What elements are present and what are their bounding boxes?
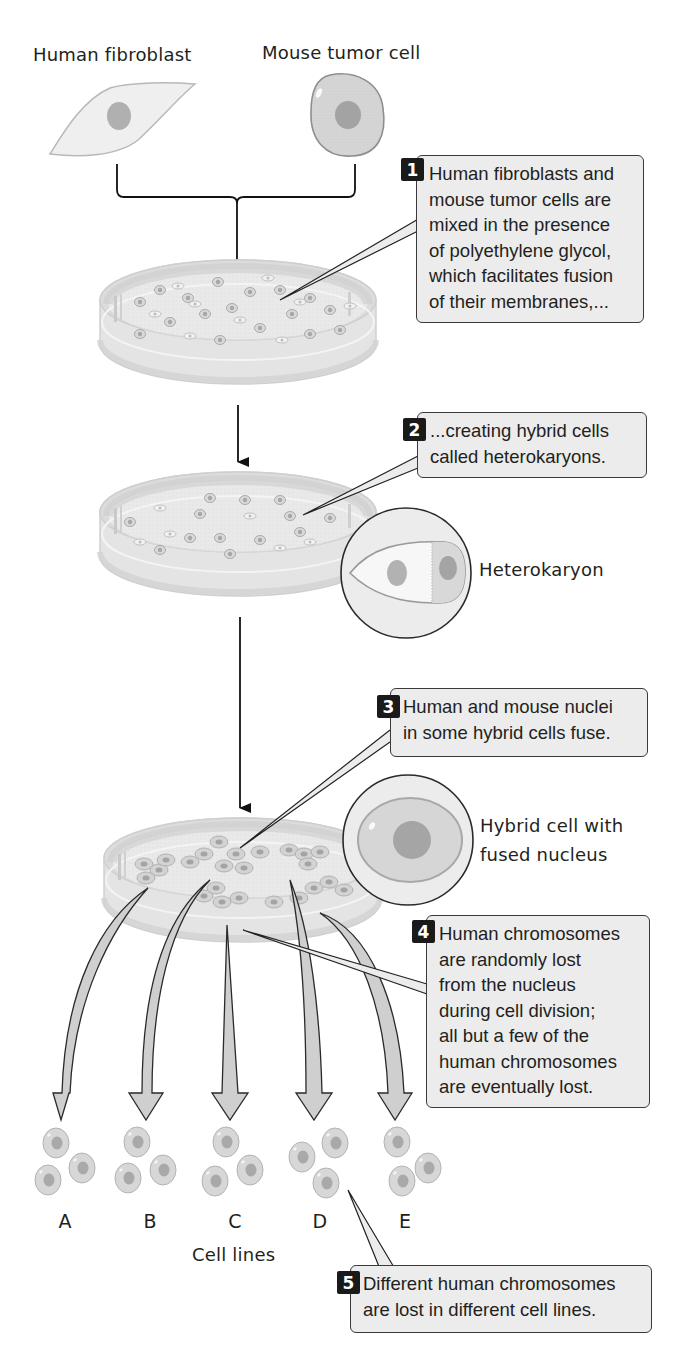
label-hybrid-line-2: fused nucleus <box>480 840 623 869</box>
label-heterokaryon: Heterokaryon <box>479 559 604 581</box>
step-1-line: of polyethylene glycol, <box>429 238 635 264</box>
human-fibroblast-cell <box>50 83 195 156</box>
step-4-line: Human chromosomes <box>439 921 641 947</box>
step-4-badge: 4 <box>412 920 435 943</box>
label-hybrid-cell: Hybrid cell with fused nucleus <box>480 811 623 869</box>
step-3-badge: 3 <box>377 695 400 718</box>
cell-line-label-b: B <box>135 1210 165 1232</box>
pointer-step-5 <box>348 1190 395 1269</box>
callout-step-3: Human and mouse nuclei in some hybrid ce… <box>390 688 648 757</box>
label-hybrid-line-1: Hybrid cell with <box>480 811 623 840</box>
petri-dish-1 <box>100 260 376 384</box>
cluster-a <box>35 1128 95 1195</box>
step-4-line: human chromosomes <box>439 1049 641 1075</box>
mouse-tumor-cell <box>311 74 384 156</box>
heterokaryon-magnifier <box>341 508 471 638</box>
cluster-e <box>384 1127 441 1196</box>
step-4-line: are eventually lost. <box>439 1074 641 1100</box>
callout-step-1: Human fibroblasts and mouse tumor cells … <box>416 155 644 323</box>
callout-step-2: ...creating hybrid cells called heteroka… <box>417 412 647 478</box>
merge-bracket <box>117 164 355 203</box>
petri-dish-2 <box>100 472 376 596</box>
label-cell-lines: Cell lines <box>192 1244 275 1266</box>
pointer-step-4 <box>243 930 427 994</box>
cell-line-label-d: D <box>305 1210 335 1232</box>
step-4-line: during cell division; <box>439 998 641 1024</box>
step-4-line: from the nucleus <box>439 972 641 998</box>
step-2-badge: 2 <box>403 418 426 441</box>
cluster-b <box>115 1127 176 1193</box>
step-1-line: of their membranes,... <box>429 289 635 315</box>
cell-line-label-e: E <box>390 1210 420 1232</box>
cluster-d <box>289 1128 348 1198</box>
step-5-line: are lost in different cell lines. <box>363 1297 643 1323</box>
step-1-badge: 1 <box>401 158 424 181</box>
step-1-line: mouse tumor cells are <box>429 187 635 213</box>
cluster-c <box>202 1127 263 1196</box>
hybrid-cell-magnifier <box>343 775 473 905</box>
callout-step-4: Human chromosomes are randomly lost from… <box>426 915 650 1108</box>
label-mouse-tumor-cell: Mouse tumor cell <box>262 42 420 64</box>
cell-line-label-a: A <box>50 1210 80 1232</box>
step-3-line: Human and mouse nuclei <box>403 694 639 720</box>
label-human-fibroblast: Human fibroblast <box>33 44 192 66</box>
cell-line-clusters <box>35 1127 441 1198</box>
cell-line-label-c: C <box>220 1210 250 1232</box>
step-1-line: Human fibroblasts and <box>429 161 635 187</box>
step-5-badge: 5 <box>337 1271 360 1294</box>
step-2-line: called heterokaryons. <box>430 444 638 470</box>
step-4-line: all but a few of the <box>439 1023 641 1049</box>
step-1-line: which facilitates fusion <box>429 263 635 289</box>
step-4-line: are randomly lost <box>439 947 641 973</box>
step-2-line: ...creating hybrid cells <box>430 418 638 444</box>
step-5-line: Different human chromosomes <box>363 1271 643 1297</box>
step-1-line: mixed in the presence <box>429 212 635 238</box>
step-3-line: in some hybrid cells fuse. <box>403 720 639 746</box>
callout-step-5: Different human chromosomes are lost in … <box>350 1265 652 1333</box>
